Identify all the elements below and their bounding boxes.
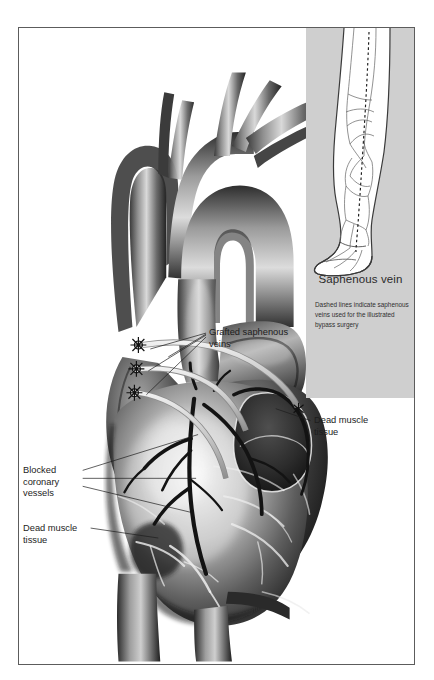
label-grafted-saphenous-veins: Grafted saphenous veins [209, 327, 289, 350]
label-dead-muscle-tissue-right: Dead muscle tissue [314, 415, 386, 438]
leg-diagram [306, 28, 415, 278]
inset-title: Saphenous vein [306, 273, 415, 285]
illustration-frame: Saphenous vein Dashed lines indicate sap… [18, 27, 415, 665]
saphenous-vein-inset-panel: Saphenous vein Dashed lines indicate sap… [306, 28, 415, 398]
label-blocked-coronary-vessels: Blocked coronary vessels [23, 465, 83, 500]
inset-caption: Dashed lines indicate saphenous veins us… [315, 300, 411, 330]
label-dead-muscle-tissue-left: Dead muscle tissue [23, 523, 89, 546]
